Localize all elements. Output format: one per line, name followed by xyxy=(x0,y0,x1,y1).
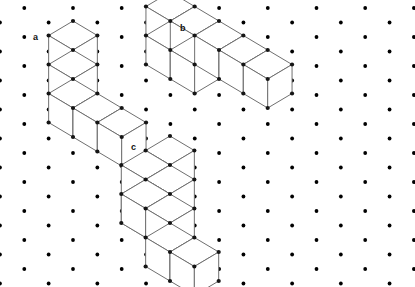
cube-vertex-dot xyxy=(241,91,245,95)
grid-dot xyxy=(22,151,26,155)
grid-dot xyxy=(22,209,26,213)
grid-dot xyxy=(95,253,99,257)
grid-dot xyxy=(71,209,75,213)
grid-dot xyxy=(144,79,148,83)
cube-vertex-dot xyxy=(217,19,221,23)
cube-vertex-dot xyxy=(119,192,123,196)
grid-dot xyxy=(120,93,124,97)
grid-dot xyxy=(22,238,26,242)
cube-vertex-dot xyxy=(217,77,221,81)
cube-vertex-dot xyxy=(192,235,196,239)
grid-dot xyxy=(242,282,246,286)
grid-dot xyxy=(339,108,343,112)
grid-dot xyxy=(290,108,294,112)
grid-dot xyxy=(388,21,392,25)
cube-vertex-dot xyxy=(168,134,172,138)
cube-vertex-dot xyxy=(144,120,148,124)
cube-vertex-dot xyxy=(71,19,75,23)
cube-vertex-dot xyxy=(217,250,221,254)
grid-dot xyxy=(388,282,392,286)
grid-dot xyxy=(339,224,343,228)
grid-dot xyxy=(266,35,270,39)
cube-vertex-dot xyxy=(266,48,270,52)
grid-dot xyxy=(169,122,173,126)
grid-dot xyxy=(363,209,367,213)
grid-dot xyxy=(217,151,221,155)
grid-dot xyxy=(339,282,343,286)
grid-dot xyxy=(242,195,246,199)
cube-vertex-dot xyxy=(144,33,148,37)
grid-dot xyxy=(315,35,319,39)
cube-vertex-dot xyxy=(192,206,196,210)
grid-dot xyxy=(71,238,75,242)
grid-dot xyxy=(388,79,392,83)
cube-vertex-dot xyxy=(144,235,148,239)
grid-dot xyxy=(266,267,270,271)
grid-dot xyxy=(47,253,51,257)
grid-dot xyxy=(290,50,294,54)
cube-vertex-dot xyxy=(217,279,221,283)
grid-dot xyxy=(47,21,51,25)
cube-vertex-dot xyxy=(168,279,172,283)
grid-dot xyxy=(315,93,319,97)
cube-vertex-dot xyxy=(217,48,221,52)
cube-vertex-dot xyxy=(144,177,148,181)
grid-dot xyxy=(193,108,197,112)
grid-dot xyxy=(290,195,294,199)
cube-vertex-dot xyxy=(71,48,75,52)
grid-dot xyxy=(47,224,51,228)
figure-label-b: b xyxy=(180,23,186,33)
grid-dot xyxy=(363,151,367,155)
grid-dot xyxy=(71,6,75,10)
grid-dot xyxy=(388,224,392,228)
grid-dot xyxy=(315,267,319,271)
grid-dot xyxy=(266,180,270,184)
grid-dot xyxy=(242,253,246,257)
grid-dot xyxy=(217,6,221,10)
grid-dot xyxy=(363,6,367,10)
grid-dot xyxy=(217,122,221,126)
grid-dot xyxy=(339,137,343,141)
grid-dot xyxy=(363,35,367,39)
cube-vertex-dot xyxy=(168,221,172,225)
grid-dot xyxy=(388,253,392,257)
grid-dot xyxy=(22,122,26,126)
cube-vertex-dot xyxy=(47,33,51,37)
grid-dot xyxy=(95,21,99,25)
grid-dot xyxy=(315,122,319,126)
grid-dot xyxy=(120,267,124,271)
cube-vertex-dot xyxy=(71,106,75,110)
grid-dot xyxy=(363,122,367,126)
grid-dot xyxy=(266,151,270,155)
cube-vertex-dot xyxy=(192,264,196,268)
grid-dot xyxy=(315,64,319,68)
grid-dot xyxy=(388,108,392,112)
cube-vertex-dot xyxy=(168,19,172,23)
grid-dot xyxy=(315,209,319,213)
cube-vertex-dot xyxy=(241,33,245,37)
cube-vertex-dot xyxy=(290,62,294,66)
cube-vertex-dot xyxy=(144,62,148,66)
grid-dot xyxy=(339,79,343,83)
grid-dot xyxy=(242,166,246,170)
grid-dot xyxy=(363,267,367,271)
grid-dot xyxy=(266,238,270,242)
cube-vertex-dot xyxy=(266,77,270,81)
cube-vertex-dot xyxy=(168,250,172,254)
grid-dot xyxy=(388,166,392,170)
grid-dot xyxy=(22,6,26,10)
cube-vertex-dot xyxy=(120,106,124,110)
cube-vertex-dot xyxy=(71,77,75,81)
grid-dot xyxy=(242,224,246,228)
cube-vertex-dot xyxy=(119,221,123,225)
grid-dot xyxy=(95,166,99,170)
grid-dot xyxy=(22,35,26,39)
grid-dot xyxy=(290,282,294,286)
grid-dot xyxy=(120,64,124,68)
grid-dot xyxy=(95,195,99,199)
grid-dot xyxy=(242,108,246,112)
cube-vertex-dot xyxy=(193,62,197,66)
grid-dot xyxy=(22,64,26,68)
cube-vertex-dot xyxy=(192,148,196,152)
cube-vertex-dot xyxy=(95,120,99,124)
